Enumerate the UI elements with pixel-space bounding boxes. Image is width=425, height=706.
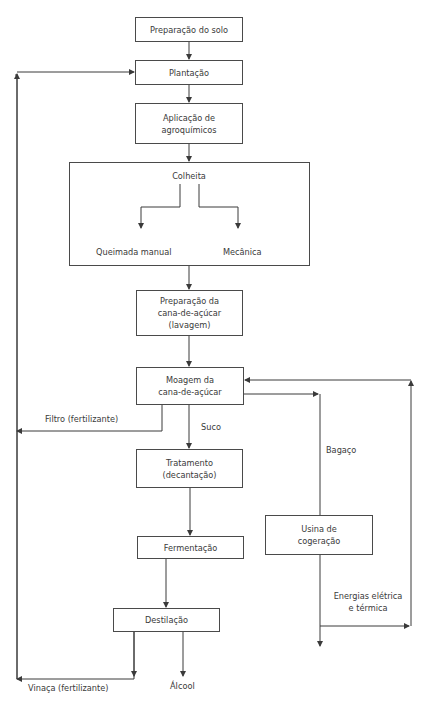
label-vinaca: Vinaça (fertilizante) [28,682,108,694]
node-colheita-label: Colheita [169,170,209,182]
node-destilacao: Destilação [113,608,220,632]
node-plantacao: Plantação [135,60,243,85]
node-label: Moagem da cana-de-açúcar [158,374,221,398]
label-bagaco: Bagaço [326,444,356,456]
node-label: Tratamento (decantação) [162,457,216,481]
node-preparacao-solo: Preparação do solo [135,17,243,42]
label-filtro: Filtro (fertilizante) [45,413,118,425]
node-preparacao-cana: Preparação da cana-de-açúcar (lavagem) [136,290,243,336]
node-moagem: Moagem da cana-de-açúcar [136,367,244,405]
node-fermentacao: Fermentação [137,536,244,559]
label-suco: Suco [201,421,221,433]
label-alcool: Álcool [170,680,195,692]
node-tratamento: Tratamento (decantação) [136,449,243,488]
node-label: Usina de cogeração [298,523,341,547]
node-label: Destilação [145,614,188,626]
node-aplicacao-agroquimicos: Aplicação de agroquímicos [135,103,243,144]
node-label: Preparação do solo [150,24,228,36]
node-mecanica: Mecânica [223,246,262,258]
node-queimada-manual: Queimada manual [96,246,171,258]
node-label: Aplicação de agroquímicos [161,112,216,136]
node-label: Preparação da cana-de-açúcar (lavagem) [158,295,221,331]
label-energias: Energias elétrica e térmica [328,590,408,614]
arrow-vinaca [17,631,134,679]
node-usina-cogeracao: Usina de cogeração [265,515,373,555]
node-label: Plantação [169,67,209,79]
node-label: Fermentação [164,542,217,554]
